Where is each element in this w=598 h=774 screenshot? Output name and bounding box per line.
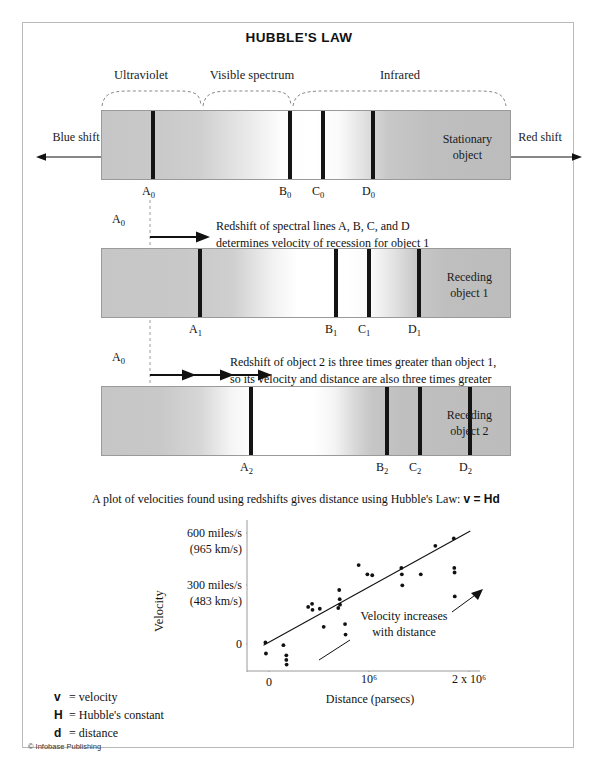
tick-b1: B1 <box>325 322 337 338</box>
spectrum-receding-1: Receding object 1 <box>101 248 511 318</box>
key-symbol-d: d <box>54 724 66 742</box>
spectral-line-d0 <box>371 111 375 179</box>
spectral-line-a2 <box>249 387 253 455</box>
chart-x-axis-title: Distance (parsecs) <box>300 692 440 707</box>
spectral-line-c2 <box>418 387 422 455</box>
chart-xtick-0: 0 <box>248 675 290 690</box>
tick-c1: C1 <box>358 322 370 338</box>
band-braces <box>100 86 512 108</box>
chart-plot-area <box>246 520 480 672</box>
data-point <box>433 544 437 548</box>
key-symbol-v: v <box>54 688 66 706</box>
note-object1-line1: Redshift of spectral lines A, B, C, and … <box>216 218 516 235</box>
tick-a1: A1 <box>189 322 202 338</box>
data-point <box>370 573 374 577</box>
note-object2-line1: Redshift of object 2 is three times grea… <box>230 354 540 371</box>
red-shift-label: Red shift <box>500 130 580 145</box>
spectral-line-b1 <box>334 249 338 317</box>
data-point <box>311 608 315 612</box>
data-point <box>453 571 457 575</box>
spectrum-receding-2: Receding object 2 <box>101 386 511 456</box>
spectral-line-c1 <box>367 249 371 317</box>
redshift-arrow-object1 <box>150 230 210 244</box>
data-point <box>337 588 341 592</box>
key-row-d: d = distance <box>54 724 164 742</box>
chart-annotation: Velocity increases with distance <box>340 608 468 640</box>
page-title: HUBBLE'S LAW <box>0 30 598 45</box>
annotation-line2: with distance <box>340 624 468 640</box>
spectral-line-d1 <box>417 249 421 317</box>
tick-d2: D2 <box>459 460 472 476</box>
chart-xtick-2e6: 2 x 10⁶ <box>438 672 500 687</box>
data-point <box>419 572 423 576</box>
data-point <box>400 583 404 587</box>
key-row-v: v = velocity <box>54 688 164 706</box>
band-label-infrared: Infrared <box>340 68 460 83</box>
data-point <box>365 572 369 576</box>
legend-key: v = velocity H = Hubble's constant d = d… <box>54 688 164 742</box>
data-point <box>285 663 289 667</box>
spectral-line-a0 <box>151 111 155 179</box>
tick-a2: A2 <box>240 460 253 476</box>
key-text-d: distance <box>79 726 118 740</box>
data-point <box>306 605 310 609</box>
ytick-600-secondary: (965 km/s) <box>160 542 242 558</box>
data-point <box>264 652 268 656</box>
object-label-line1: Receding <box>447 269 492 285</box>
annotation-arrow-down <box>318 638 352 662</box>
chart-xtick-1e6: 10⁶ <box>348 672 390 687</box>
data-point <box>282 643 286 647</box>
object-label-line2: object <box>443 147 492 163</box>
ytick-300-secondary: (483 km/s) <box>160 594 242 610</box>
band-label-visible: Visible spectrum <box>192 68 312 83</box>
annotation-arrow-up <box>450 588 486 614</box>
annotation-line1: Velocity increases <box>340 608 468 624</box>
tick-d0: D0 <box>362 184 375 200</box>
key-symbol-h: H <box>54 706 66 724</box>
spectral-line-a1 <box>198 249 202 317</box>
data-point <box>338 597 342 601</box>
data-point <box>318 607 322 611</box>
spectral-line-b2 <box>385 387 389 455</box>
tick-b2: B2 <box>376 460 388 476</box>
spectrum-object-label-receding1: Receding object 1 <box>447 269 492 301</box>
key-eq-v: = <box>69 690 76 704</box>
tick-c0: C0 <box>312 184 324 200</box>
tick-b0: B0 <box>279 184 291 200</box>
object-label-line2: object 2 <box>447 423 492 439</box>
copyright-credit: © Infobase Publishing <box>28 742 101 751</box>
key-text-v: velocity <box>79 690 118 704</box>
tick-d1: D1 <box>408 322 421 338</box>
object-label-line2: object 1 <box>447 285 492 301</box>
diagram-page: HUBBLE'S LAW Ultraviolet Visible spectru… <box>0 0 598 774</box>
note-object2: Redshift of object 2 is three times grea… <box>230 354 540 389</box>
data-point <box>284 653 288 657</box>
spectrum-object-label-stationary: Stationary object <box>443 131 492 163</box>
spectral-line-c0 <box>321 111 325 179</box>
chart-ytick-0: 0 <box>160 637 242 653</box>
data-point <box>322 625 326 629</box>
data-point <box>452 566 456 570</box>
spectrum-object-label-receding2: Receding object 2 <box>447 407 492 439</box>
tick-c2: C2 <box>409 460 421 476</box>
plot-caption-text: A plot of velocities found using redshif… <box>92 492 463 506</box>
object-label-line1: Stationary <box>443 131 492 147</box>
data-point <box>400 572 404 576</box>
spectrum-stationary: Stationary object <box>101 110 511 180</box>
data-point <box>310 602 314 606</box>
chart-ytick-600: 600 miles/s (965 km/s) <box>160 526 242 557</box>
spectral-line-b0 <box>288 111 292 179</box>
tick-a0: A0 <box>142 184 155 200</box>
data-point <box>284 658 288 662</box>
key-row-h: H = Hubble's constant <box>54 706 164 724</box>
hubble-formula: v = Hd <box>463 492 499 506</box>
velocity-distance-chart: Velocity 600 miles/s (965 km/s) 300 mile… <box>150 520 480 700</box>
redshift-arrow-object2 <box>150 368 272 382</box>
ytick-600-primary: 600 miles/s <box>160 526 242 542</box>
ytick-300-primary: 300 miles/s <box>160 578 242 594</box>
chart-ytick-300: 300 miles/s (483 km/s) <box>160 578 242 609</box>
red-shift-arrow <box>502 150 582 164</box>
plot-caption: A plot of velocities found using redshif… <box>92 492 500 507</box>
reference-marker-label-1: A0 <box>112 212 125 228</box>
object-label-line1: Receding <box>447 407 492 423</box>
